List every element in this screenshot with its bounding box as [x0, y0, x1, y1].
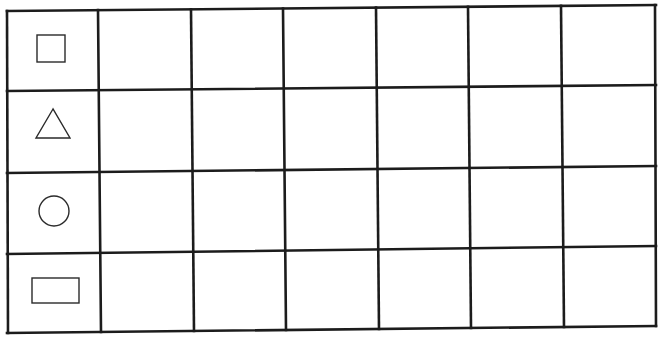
- table-cell[interactable]: [100, 171, 194, 253]
- shape-label-cell: [7, 10, 99, 91]
- table-cell[interactable]: [563, 166, 656, 247]
- table-cell[interactable]: [191, 8, 284, 89]
- table-cell[interactable]: [470, 167, 564, 248]
- table-cell[interactable]: [99, 89, 193, 172]
- table-cell[interactable]: [378, 248, 471, 329]
- shape-label-cell: [8, 253, 101, 333]
- table-cell[interactable]: [469, 86, 563, 168]
- table-cell[interactable]: [192, 88, 285, 171]
- table-cell[interactable]: [376, 7, 469, 88]
- grid-border-left: [7, 11, 8, 333]
- table-cell[interactable]: [285, 249, 379, 330]
- shape-label-cell: [8, 172, 101, 254]
- grid-border-right: [655, 5, 656, 326]
- table-cell[interactable]: [100, 252, 194, 332]
- table-cell[interactable]: [98, 9, 192, 90]
- table-cell[interactable]: [284, 88, 378, 170]
- table-cell[interactable]: [468, 6, 562, 87]
- table-cell[interactable]: [378, 168, 471, 249]
- shape-grid: [0, 0, 660, 337]
- table-cell[interactable]: [193, 251, 286, 331]
- shape-label-cell: [7, 90, 99, 173]
- table-cell[interactable]: [563, 246, 656, 327]
- table-cell[interactable]: [561, 5, 655, 86]
- table-cell[interactable]: [193, 170, 286, 252]
- table-cell[interactable]: [470, 247, 564, 328]
- table-cell[interactable]: [285, 169, 379, 251]
- table-cell[interactable]: [377, 87, 470, 169]
- table-cell[interactable]: [562, 85, 656, 167]
- table-cell[interactable]: [283, 8, 377, 89]
